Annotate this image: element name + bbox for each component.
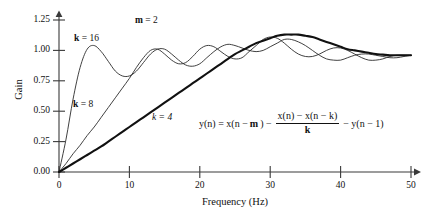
equation-fraction: x(n) − x(n − k) k <box>276 111 340 135</box>
m-value: = 2 <box>143 15 158 25</box>
x-tick-label-5: 50 <box>399 180 423 190</box>
x-axis-title: Frequency (Hz) <box>150 196 320 207</box>
x-tick-label-3: 30 <box>258 180 282 190</box>
x-tick-label-2: 20 <box>188 180 212 190</box>
x-axis-arrowhead <box>414 169 421 176</box>
x-tick-label-1: 10 <box>117 180 141 190</box>
y-tick-label-4: 1.00 <box>18 44 50 54</box>
annotation-m-value: m = 2 <box>135 15 158 25</box>
equation-m-variable: m <box>250 118 258 129</box>
equation-tail: − y(n − 1) <box>343 118 383 129</box>
x-tick-label-0: 0 <box>47 180 71 190</box>
m-variable: m <box>135 15 143 25</box>
curve-label-k-16: k = 16 <box>74 33 99 43</box>
equation-lhs: y(n) = x(n − <box>199 118 248 129</box>
equation-after-m: ) − <box>260 118 271 129</box>
axes <box>53 11 421 179</box>
y-tick-label-1: 0.25 <box>18 136 50 146</box>
curve-label-k-8: k = 8 <box>73 99 93 109</box>
y-tick-label-0: 0.00 <box>18 166 50 176</box>
gain-vs-frequency-figure: Gain Frequency (Hz) 0.00 0.25 0.50 0.75 … <box>0 0 434 215</box>
y-tick-label-3: 0.75 <box>18 75 50 85</box>
data-curves <box>59 35 411 172</box>
difference-equation: y(n) = x(n − m ) − x(n) − x(n − k) k − y… <box>198 111 385 135</box>
y-axis-arrowhead <box>56 11 63 18</box>
equation-denominator: k <box>303 125 313 136</box>
y-tick-label-2: 0.50 <box>18 105 50 115</box>
k16-value: = 16 <box>79 33 99 43</box>
curve-k-8 <box>59 37 411 172</box>
equation-numerator: x(n) − x(n − k) <box>276 111 340 122</box>
curve-label-k-4: k = 4 <box>152 112 172 122</box>
x-tick-label-4: 40 <box>329 180 353 190</box>
k8-value: = 8 <box>78 99 93 109</box>
y-tick-label-5: 1.25 <box>18 14 50 24</box>
k4-value: = 4 <box>156 112 172 122</box>
